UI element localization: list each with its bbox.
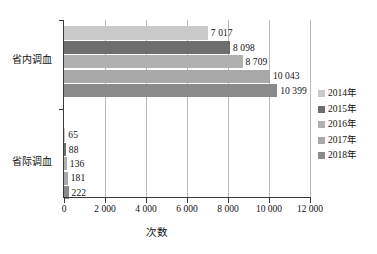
bar-group-province-external: 65 88 136 181 222 (64, 128, 310, 200)
legend-swatch-icon (318, 137, 325, 144)
bar-value-label: 181 (68, 173, 86, 183)
bar-row: 136 (64, 157, 310, 171)
category-label-province-internal: 省内调血 (4, 51, 60, 66)
bar-value-label: 88 (66, 144, 79, 154)
x-axis-tick-label: 6 000 (176, 204, 197, 214)
legend-item-2018: 2018年 (318, 148, 377, 164)
bar-row: 88 (64, 142, 310, 156)
x-axis-tick-label: 2 000 (94, 204, 115, 214)
x-axis-tick (187, 198, 188, 203)
legend-swatch-icon (318, 121, 325, 128)
legend: 2014年 2015年 2016年 2017年 2018年 (318, 86, 377, 164)
plot-area: 7 017 8 098 8 709 10 043 10 399 65 (64, 20, 310, 198)
legend-item-2017: 2017年 (318, 133, 377, 149)
x-axis-tick-label: 4 000 (135, 204, 156, 214)
x-axis-tick (310, 198, 311, 203)
legend-label: 2017年 (328, 136, 357, 146)
bar-row: 10 043 (64, 69, 310, 83)
x-axis-tick (64, 198, 65, 203)
bar-row: 8 709 (64, 55, 310, 69)
bar-row: 7 017 (64, 26, 310, 40)
legend-label: 2015年 (328, 105, 357, 115)
bar-group-province-internal: 7 017 8 098 8 709 10 043 10 399 (64, 26, 310, 98)
bar-chart: 7 017 8 098 8 709 10 043 10 399 65 (0, 0, 377, 254)
bar-value-label: 7 017 (208, 28, 233, 38)
bar-row: 10 399 (64, 84, 310, 98)
x-axis-tick (269, 198, 270, 203)
bar-2018-省内调血 (64, 84, 277, 97)
bar-value-label: 65 (65, 130, 78, 140)
legend-item-2015: 2015年 (318, 102, 377, 118)
bar-value-label: 136 (67, 159, 85, 169)
gridline (310, 20, 311, 198)
legend-label: 2014年 (328, 89, 357, 99)
x-axis-tick-label: 0 (62, 204, 67, 214)
legend-swatch-icon (318, 90, 325, 97)
y-axis-tick (59, 20, 64, 21)
bar-row: 8 098 (64, 40, 310, 54)
legend-label: 2018年 (328, 151, 357, 161)
bar-value-label: 8 098 (230, 42, 255, 52)
bar-value-label: 10 399 (277, 86, 307, 96)
legend-item-2016: 2016年 (318, 117, 377, 133)
x-axis-tick (105, 198, 106, 203)
bar-2014-省内调血 (64, 26, 208, 39)
bar-value-label: 10 043 (270, 71, 300, 81)
bar-row: 181 (64, 171, 310, 185)
bar-2016-省内调血 (64, 55, 243, 68)
bar-value-label: 8 709 (243, 57, 268, 67)
legend-swatch-icon (318, 106, 325, 113)
bar-2017-省内调血 (64, 70, 270, 83)
y-axis-tick (59, 109, 64, 110)
x-axis-tick (146, 198, 147, 203)
x-axis-tick-label: 8 000 (217, 204, 238, 214)
x-axis-tick-label: 12 000 (297, 204, 323, 214)
bar-2015-省内调血 (64, 41, 230, 54)
x-axis-tick-label: 10 000 (256, 204, 282, 214)
legend-item-2014: 2014年 (318, 86, 377, 102)
category-label-province-external: 省际调血 (4, 153, 60, 168)
legend-label: 2016年 (328, 120, 357, 130)
x-axis-tick (228, 198, 229, 203)
bar-row: 65 (64, 128, 310, 142)
legend-swatch-icon (318, 152, 325, 159)
x-axis-title: 次数 (0, 224, 377, 239)
